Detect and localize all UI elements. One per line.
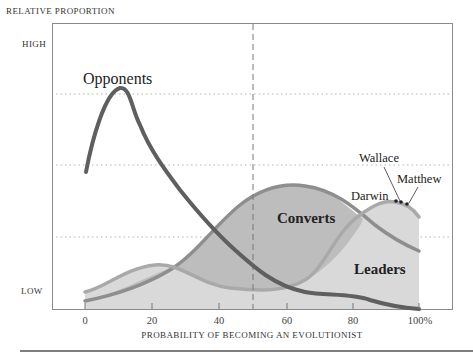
- darwin-dot: [394, 199, 398, 203]
- matthew-dot: [405, 202, 409, 206]
- chart-svg: RELATIVE PROPORTION HIGH LOW 0 20 40 60 …: [0, 0, 473, 357]
- x-tick-80: 80: [348, 315, 359, 326]
- x-tick-40: 40: [214, 315, 225, 326]
- matthew-label: Matthew: [397, 172, 441, 186]
- opponents-label: Opponents: [83, 70, 152, 88]
- x-tick-0: 0: [82, 315, 87, 326]
- darwin-label: Darwin: [351, 189, 389, 203]
- x-axis-title: PROBABILITY OF BECOMING AN EVOLUTIONIST: [141, 330, 362, 340]
- x-tick-60: 60: [282, 315, 293, 326]
- y-low-label: LOW: [21, 286, 43, 296]
- wallace-label: Wallace: [359, 151, 399, 165]
- x-tick-20: 20: [147, 315, 158, 326]
- x-tick-100: 100%: [408, 315, 433, 326]
- leaders-label: Leaders: [354, 261, 406, 277]
- converts-label: Converts: [277, 210, 335, 226]
- y-axis-title: RELATIVE PROPORTION: [6, 6, 115, 16]
- y-high-label: HIGH: [22, 39, 46, 49]
- wallace-dot: [399, 200, 403, 204]
